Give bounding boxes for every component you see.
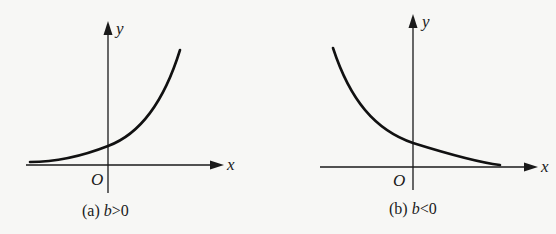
panel-b-x-label: x (540, 157, 549, 176)
panel-a-x-axis-arrow-icon (210, 161, 224, 170)
panel-a: y x O (a) b>0 (26, 19, 235, 220)
panel-b-caption-prefix: (b) (389, 200, 412, 218)
panel-a-growth-curve (30, 50, 180, 162)
panel-b-origin-label: O (393, 171, 405, 190)
panel-a-y-axis-arrow-icon (104, 21, 113, 35)
panel-b-x-axis-arrow-icon (524, 163, 538, 172)
panel-b-caption: (b) b<0 (389, 200, 437, 218)
panel-b-caption-rel: <0 (420, 200, 437, 217)
panel-a-y-label: y (114, 19, 124, 38)
panel-b-y-axis-arrow-icon (409, 14, 418, 28)
panel-b-caption-var: b (412, 200, 420, 217)
panel-b-decay-curve (333, 48, 500, 165)
panel-a-caption-var: b (104, 202, 112, 219)
panel-a-x-label: x (226, 155, 235, 174)
panel-a-caption-prefix: (a) (82, 202, 104, 220)
panel-b-y-label: y (420, 12, 430, 31)
panel-b: y x O (b) b<0 (320, 12, 549, 218)
panel-a-caption-rel: >0 (112, 202, 129, 219)
exponential-graphs-figure: y x O (a) b>0 y x O (b) b<0 (0, 0, 556, 234)
figure-canvas: y x O (a) b>0 y x O (b) b<0 (0, 0, 556, 234)
panel-a-caption: (a) b>0 (82, 202, 129, 220)
panel-a-origin-label: O (91, 170, 103, 189)
